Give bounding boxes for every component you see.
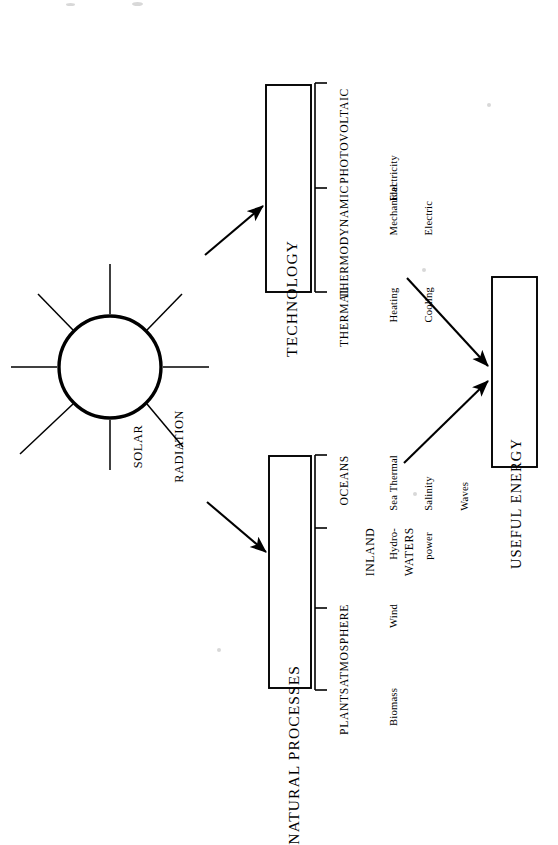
natural-processes-box-rect [269, 456, 311, 688]
scan-speck [132, 2, 143, 6]
technology-category-thermodynamic: THERMODYNAMIC [338, 185, 351, 298]
natural-output-inland-waters: Hydro- power [364, 528, 459, 560]
sun-ray-ne [147, 294, 182, 330]
sun-ray-nw [38, 294, 73, 330]
solar-radiation-line2: RADIATION [173, 410, 187, 483]
scan-speck [422, 268, 426, 272]
natural-category-plants: PLANTS [338, 687, 351, 735]
technology-output-cooling: Cooling [423, 287, 435, 323]
arrow-solar-to-technology [205, 206, 263, 255]
natural-output-biomass: Biomass [388, 688, 400, 726]
sun-ray-sw [20, 404, 73, 454]
natural-processes-title: NATURAL PROCESSES [285, 665, 302, 845]
natural-processes-bracket [315, 455, 327, 690]
technology-title: TECHNOLOGY [283, 240, 300, 357]
arrow-natural-processes-to-useful-energy [404, 381, 488, 463]
natural-processes-box [269, 456, 311, 688]
scan-speck [413, 492, 417, 496]
technology-category-photovoltaic: PHOTOVOLTAIC [338, 88, 351, 184]
technology-output-photovoltaic: Electricity [364, 155, 423, 201]
technology-output-electric: Electric [423, 184, 435, 235]
natural-output-power: power [423, 528, 435, 560]
scan-speck [487, 103, 491, 107]
scan-speck [66, 3, 75, 6]
natural-output-atmosphere: Wind [364, 604, 423, 628]
natural-output-waves: Waves [459, 455, 471, 511]
solar-radiation-line1: SOLAR [132, 410, 146, 483]
natural-output-sea-thermal: Sea Thermal [388, 455, 400, 511]
sun-circle [59, 316, 161, 418]
natural-output-salinity: Salinity [423, 455, 435, 511]
arrow-solar-to-natural-processes [207, 502, 266, 552]
natural-output-hydro: Hydro- [388, 528, 400, 560]
solar-radiation-label: SOLAR RADIATION [104, 410, 215, 483]
technology-output-electricity: Electricity [388, 155, 400, 201]
natural-category-atmosphere: ATMOSPHERE [338, 604, 351, 687]
technology-output-thermal: Heating Cooling [364, 287, 459, 323]
natural-output-oceans: Sea Thermal Salinity Waves [364, 455, 494, 511]
useful-energy-title: USEFUL ENERGY [508, 438, 524, 569]
natural-category-oceans: OCEANS [338, 455, 351, 506]
natural-output-plants: Biomass [364, 688, 423, 726]
technology-bracket [315, 83, 327, 292]
scan-speck [217, 648, 221, 652]
technology-output-heating: Heating [388, 287, 400, 323]
natural-output-wind: Wind [388, 604, 400, 628]
